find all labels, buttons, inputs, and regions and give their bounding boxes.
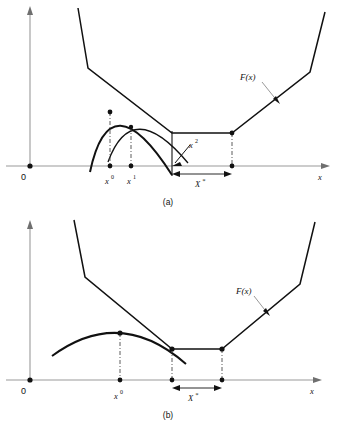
- x1-label-sup-a: 1: [133, 174, 136, 180]
- xstar-label-base-a: X: [194, 179, 201, 189]
- origin-label-b: 0: [21, 386, 26, 396]
- marker-axis-x0-b: [118, 378, 123, 383]
- x0-label-base-b: x: [113, 391, 118, 401]
- marker-kink-right-b: [219, 346, 224, 351]
- xstar-span-arrow-left-a: [172, 171, 180, 177]
- x2-pointer-a: [175, 145, 190, 163]
- model-arc-1-a: [108, 129, 188, 163]
- marker-kink-left-b: [169, 346, 174, 351]
- x-axis-arrowhead-a: [321, 163, 330, 169]
- y-axis-arrowhead-a: [27, 6, 33, 15]
- marker-axis-xstar-right-b: [220, 378, 225, 383]
- x1-label-base-a: x: [126, 176, 131, 186]
- marker-model1-vertex-a: [129, 125, 133, 129]
- panel-a: 0 x F(x) x 0 x 1 x 2 X * (a): [0, 0, 337, 214]
- x2-label-base-a: x: [188, 140, 193, 150]
- x0-label-sup-b: 0: [120, 389, 123, 395]
- x0-label-sup-a: 0: [111, 174, 114, 180]
- x2-label-a: x 2: [188, 138, 198, 150]
- model-arc-0-b: [52, 333, 186, 364]
- x0-label-a: x 0: [104, 174, 114, 186]
- x-axis-label-a: x: [317, 172, 322, 182]
- marker-kink-right-a: [230, 131, 235, 136]
- panel-a-plot: 0 x F(x) x 0 x 1 x 2 X * (a): [0, 0, 337, 214]
- figure-root: 0 x F(x) x 0 x 1 x 2 X * (a): [0, 0, 337, 428]
- panel-caption-b: (b): [163, 410, 174, 420]
- marker-axis-xstar-left-b: [170, 378, 175, 383]
- marker-origin-a: [27, 163, 32, 168]
- xstar-label-sup-b: *: [195, 391, 199, 398]
- f-curve-b: [74, 220, 315, 349]
- f-label-a: F(x): [239, 72, 256, 82]
- x0-label-b: x 0: [113, 389, 123, 401]
- marker-axis-xstar-right-a: [230, 164, 235, 169]
- origin-label-a: 0: [21, 172, 26, 182]
- xstar-span-arrow-right-b: [214, 385, 222, 391]
- xstar-label-b: X *: [187, 391, 199, 403]
- x-axis-arrowhead-b: [313, 377, 322, 383]
- x-axis-label-b: x: [309, 386, 314, 396]
- marker-origin-b: [27, 377, 32, 382]
- xstar-label-sup-a: *: [202, 177, 206, 184]
- y-axis-arrowhead-b: [27, 220, 33, 229]
- xstar-label-base-b: X: [187, 393, 194, 403]
- x2-pointer-arrow-a: [172, 162, 182, 166]
- marker-axis-x0-a: [108, 164, 113, 169]
- xstar-span-arrow-left-b: [172, 385, 180, 391]
- panel-b-plot: 0 x F(x) x 0 X * (b): [0, 214, 337, 428]
- xstar-span-arrow-right-a: [224, 171, 232, 177]
- panel-b: 0 x F(x) x 0 X * (b): [0, 214, 337, 428]
- marker-model0-vertex-a: [108, 110, 113, 115]
- xstar-label-a: X *: [194, 177, 206, 189]
- f-label-b: F(x): [235, 286, 252, 296]
- f-curve-a: [78, 8, 325, 133]
- marker-model0-vertex-b: [117, 330, 122, 335]
- x2-label-sup-a: 2: [195, 138, 198, 144]
- x1-label-a: x 1: [126, 174, 136, 186]
- x0-label-base-a: x: [104, 176, 109, 186]
- panel-caption-a: (a): [163, 197, 174, 207]
- marker-axis-x1-a: [129, 164, 134, 169]
